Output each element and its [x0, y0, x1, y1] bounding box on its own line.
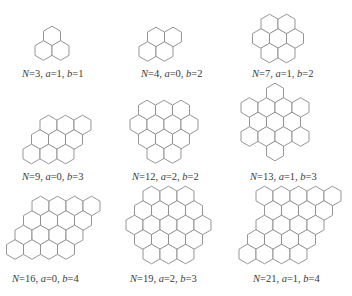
- cluster-n7: N=7, a=1, b=2: [251, 14, 314, 79]
- hexagon-cell: [23, 144, 40, 164]
- hexagon-cell: [164, 144, 181, 164]
- hexagon-cell: [156, 42, 173, 62]
- hexagon-cell: [239, 244, 256, 264]
- hexagon-cell: [24, 240, 41, 260]
- hexagon-cell: [292, 127, 309, 147]
- cluster-n3: N=3, a=1, b=1: [21, 26, 84, 79]
- cluster-n9: N=9, a=0, b=3: [21, 115, 91, 182]
- cluster-label: N=12, a=2, b=2: [131, 171, 199, 182]
- cluster-label: N=19, a=2, b=3: [129, 273, 197, 284]
- hexagon-cell: [41, 240, 58, 260]
- cluster-label: N=13, a=1, b=3: [249, 171, 317, 182]
- hexagon-cell: [267, 141, 284, 161]
- cluster-n12: N=12, a=2, b=2: [130, 100, 199, 182]
- cluster-label: N=9, a=0, b=3: [21, 171, 84, 182]
- cluster-label: N=3, a=1, b=1: [21, 68, 84, 79]
- cluster-n13: N=13, a=1, b=3: [241, 83, 317, 182]
- cluster-n21: N=21, a=1, b=4: [239, 186, 341, 284]
- hexagon-cell: [7, 240, 24, 260]
- hexagon-cell: [139, 42, 156, 62]
- cluster-label: N=7, a=1, b=2: [251, 68, 314, 79]
- hexagon-cell: [290, 244, 307, 264]
- hexagon-cell: [40, 144, 57, 164]
- cluster-label: N=4, a=0, b=2: [140, 68, 203, 79]
- hexagon-cell: [57, 144, 74, 164]
- cluster-n4: N=4, a=0, b=2: [139, 27, 203, 79]
- hexagon-cell: [261, 43, 278, 63]
- hexagon-cell: [160, 244, 177, 264]
- cluster-n19: N=19, a=2, b=3: [126, 186, 211, 284]
- hexagon-cluster-diagram: N=3, a=1, b=1N=4, a=0, b=2N=7, a=1, b=2N…: [0, 0, 352, 296]
- hexagon-cell: [58, 240, 75, 260]
- hexagon-cell: [278, 43, 295, 63]
- hexagon-cell: [256, 244, 273, 264]
- cluster-n16: N=16, a=0, b=4: [7, 196, 100, 284]
- hexagon-cell: [35, 41, 52, 61]
- hexagon-cell: [273, 244, 290, 264]
- hexagon-cell: [177, 244, 194, 264]
- cluster-label: N=21, a=1, b=4: [252, 273, 321, 284]
- hexagon-cell: [143, 244, 160, 264]
- hexagon-cell: [147, 144, 164, 164]
- hexagon-cell: [52, 41, 69, 61]
- hexagon-cell: [241, 127, 258, 147]
- cluster-label: N=16, a=0, b=4: [11, 273, 80, 284]
